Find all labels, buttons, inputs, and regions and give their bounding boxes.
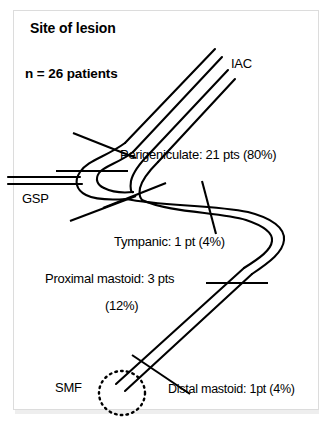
label-proximal-mastoid-percent: (12%)	[105, 299, 138, 314]
figure-title: Site of lesion	[30, 20, 116, 36]
label-perigeniculate: Perigeniculate: 21 pts (80%)	[120, 148, 276, 163]
label-smf: SMF	[55, 381, 82, 396]
figure-root: Site of lesion n = 26 patients IAC GSP P…	[0, 0, 331, 430]
gsp-branch	[8, 177, 82, 184]
iac-segment	[125, 49, 235, 162]
patient-count-subtitle: n = 26 patients	[25, 66, 118, 82]
facial-nerve-diagram	[0, 0, 331, 430]
label-tympanic: Tympanic: 1 pt (4%)	[114, 235, 225, 250]
label-proximal-mastoid: Proximal mastoid: 3 pts	[45, 272, 174, 287]
label-distal-mastoid: Distal mastoid: 1pt (4%)	[168, 382, 295, 396]
label-gsp: GSP	[22, 192, 49, 207]
label-iac: IAC	[231, 57, 252, 72]
tick-marks	[56, 133, 268, 394]
